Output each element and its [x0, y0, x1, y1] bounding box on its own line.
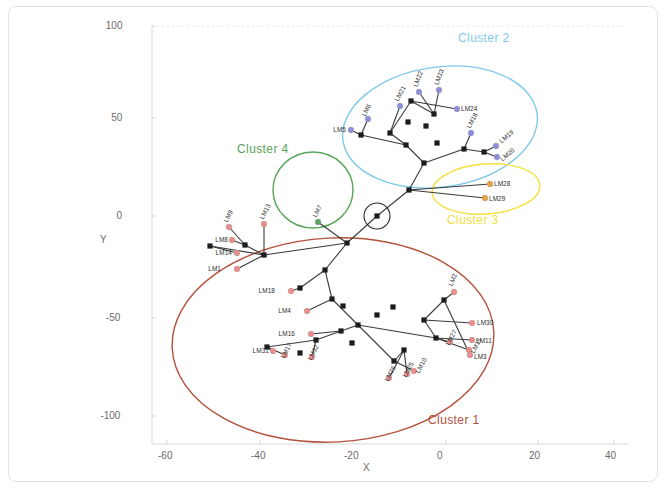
tree-edge: [325, 243, 347, 270]
tree-edge: [318, 222, 347, 243]
x-tick-3: 0: [437, 450, 443, 461]
tree-node: [329, 296, 334, 301]
x-tick-1: -40: [251, 450, 265, 461]
cluster-3-ellipse: [430, 160, 541, 217]
landmark-point-LM29: [482, 195, 488, 201]
tree-node: [390, 304, 395, 309]
landmark-label-LM16: LM16: [279, 330, 295, 337]
tree-edge: [409, 190, 485, 198]
landmark-label-LM8: LM8: [215, 236, 228, 243]
tree-node: [355, 322, 360, 327]
x-tick-5: 40: [605, 450, 616, 461]
tree-node: [401, 347, 406, 352]
landmark-label-LM29: LM29: [489, 195, 505, 202]
tree-node: [338, 328, 343, 333]
landmark-point-LM5: [348, 127, 354, 133]
landmark-point-LM2: [451, 289, 457, 295]
tree-node: [481, 149, 486, 154]
landmark-point-LM4: [304, 308, 310, 314]
tree-node: [441, 297, 446, 302]
x-tick-4: 20: [529, 450, 540, 461]
tree-node: [405, 119, 410, 124]
tree-edge: [332, 299, 358, 325]
landmark-label-LM31: LM31: [253, 347, 269, 354]
tree-edge: [444, 300, 470, 355]
landmark-point-LM30: [469, 320, 475, 326]
landmark-point-LM14: [234, 250, 240, 256]
landmark-label-LM3: LM3: [474, 353, 487, 360]
tree-node: [322, 267, 327, 272]
tree-edge: [409, 163, 424, 190]
landmark-point-LM21: [397, 103, 403, 109]
landmark-point-LM7: [315, 219, 321, 225]
tree-edge: [406, 145, 424, 163]
tree-edge: [409, 184, 490, 190]
tree-node: [434, 140, 439, 145]
tree-node: [421, 317, 426, 322]
landmark-label-LM30: LM30: [477, 319, 493, 326]
tree-edge: [300, 270, 325, 288]
tree-node: [408, 98, 413, 103]
tree-node: [297, 350, 302, 355]
tree-node: [344, 240, 349, 245]
tree-edge: [264, 243, 347, 255]
tree-node: [313, 337, 318, 342]
tree-node: [297, 285, 302, 290]
tree-node: [242, 242, 247, 247]
landmark-point-LM24: [454, 106, 460, 112]
landmark-point-LM28: [487, 181, 493, 187]
y-tick-1: 50: [111, 112, 122, 123]
tree-node: [421, 160, 426, 165]
tree-edge: [424, 320, 436, 338]
landmark-label-LM4: LM4: [278, 307, 291, 314]
tree-node: [391, 358, 396, 363]
tree-node: [374, 213, 379, 218]
tree-node: [461, 146, 466, 151]
tree-edge: [434, 90, 439, 114]
tree-edge: [424, 149, 464, 163]
landmark-point-LM31: [270, 348, 276, 354]
landmark-point-LM16: [308, 331, 314, 337]
y-tick-2: 0: [117, 210, 123, 221]
y-axis-label: Y: [100, 234, 107, 245]
landmark-point-LM22: [416, 89, 422, 95]
tree-node: [207, 243, 212, 248]
axes-group: [152, 26, 628, 444]
x-tick-0: -60: [158, 450, 172, 461]
tree-edge: [307, 299, 332, 311]
landmark-point-LM9: [226, 224, 232, 230]
cluster-3-label: Cluster 3: [447, 213, 499, 227]
tree-node: [387, 130, 392, 135]
cluster-4-ellipse: [273, 152, 353, 228]
tree-node: [374, 312, 379, 317]
x-axis-label: X: [363, 462, 370, 473]
landmark-point-LM1: [234, 266, 240, 272]
landmark-point-LM18: [288, 288, 294, 294]
tree-edge: [464, 149, 484, 152]
cluster-1-label: Cluster 1: [428, 413, 480, 427]
tree-node: [349, 340, 354, 345]
tree-node: [403, 142, 408, 147]
tree-node: [431, 111, 436, 116]
landmark-label-LM18: LM18: [259, 287, 275, 294]
tree-node: [261, 252, 266, 257]
tree-node: [406, 187, 411, 192]
landmark-point-LM19: [493, 143, 499, 149]
y-tick-4: -100: [100, 410, 120, 421]
tree-edge: [424, 320, 472, 323]
x-tick-2: -20: [344, 450, 358, 461]
tree-node: [423, 123, 428, 128]
tree-edge: [377, 190, 409, 216]
tree-node: [358, 132, 363, 137]
y-tick-3: -50: [106, 312, 120, 323]
tree-edge: [237, 255, 264, 269]
landmark-label-LM5: LM5: [333, 126, 346, 133]
landmark-label-LM14: LM14: [216, 249, 232, 256]
tree-node: [433, 335, 438, 340]
landmark-label-LM1: LM1: [208, 265, 221, 272]
landmark-point-LM13: [261, 221, 267, 227]
landmark-point-LM18b: [468, 130, 474, 136]
cluster-4-label: Cluster 4: [237, 142, 289, 156]
tree-edge: [325, 270, 332, 299]
tree-edge: [424, 300, 444, 320]
